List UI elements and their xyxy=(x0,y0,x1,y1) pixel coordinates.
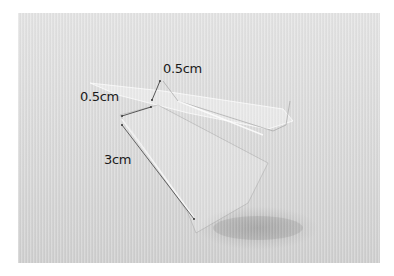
dimension-label-step: 0.5cm xyxy=(80,89,119,104)
dimension-label-length: 3cm xyxy=(104,152,131,167)
acrylic-bracket-illustration xyxy=(18,13,380,263)
product-photo xyxy=(18,13,380,263)
dimension-label-top: 0.5cm xyxy=(163,61,202,76)
